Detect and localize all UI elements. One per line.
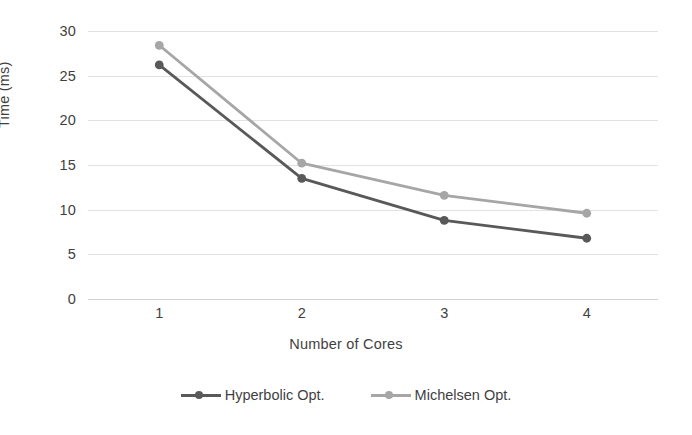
gridline: [88, 165, 658, 166]
legend-entry[interactable]: Michelsen Opt.: [371, 388, 512, 403]
legend-marker-icon: [181, 389, 221, 401]
x-axis-tick-label: 2: [298, 305, 306, 321]
plot-area: [88, 31, 658, 299]
x-axis-tick-labels: 1234: [0, 305, 692, 327]
line-chart: 051015202530 Time (ms) 1234 Number of Co…: [0, 0, 692, 435]
gridline: [88, 210, 658, 211]
y-axis-tick-label: 10: [59, 202, 76, 218]
gridline: [88, 120, 658, 121]
gridline: [88, 31, 658, 32]
chart-legend: Hyperbolic Opt.Michelsen Opt.: [0, 388, 692, 403]
legend-label: Hyperbolic Opt.: [225, 388, 325, 403]
legend-label: Michelsen Opt.: [415, 388, 512, 403]
legend-marker-icon: [371, 389, 411, 401]
y-axis-tick-label: 20: [59, 112, 76, 128]
x-axis-tick-label: 3: [440, 305, 448, 321]
x-axis-tick-label: 1: [155, 305, 163, 321]
y-axis-tick-label: 30: [59, 23, 76, 39]
y-axis-title: Time (ms): [0, 62, 12, 129]
gridline: [88, 299, 658, 300]
gridline: [88, 76, 658, 77]
y-axis-tick-label: 5: [68, 246, 76, 262]
y-axis-tick-label: 15: [59, 157, 76, 173]
gridline: [88, 254, 658, 255]
y-axis-tick-label: 25: [59, 68, 76, 84]
y-axis-tick-labels: 051015202530: [0, 0, 88, 435]
x-axis-title: Number of Cores: [0, 336, 692, 352]
x-axis-tick-label: 4: [583, 305, 591, 321]
legend-entry[interactable]: Hyperbolic Opt.: [181, 388, 325, 403]
